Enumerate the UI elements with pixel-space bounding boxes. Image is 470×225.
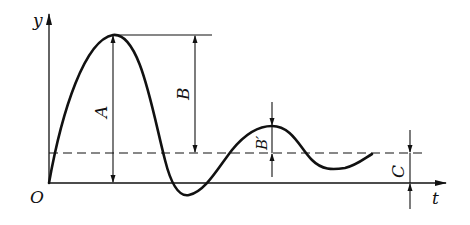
dimension-b-label: B <box>173 88 193 102</box>
x-axis-label: t <box>432 188 439 208</box>
dimension-c-label: C <box>388 165 408 178</box>
y-axis-label: y <box>32 10 43 30</box>
dimension-b-prime-label: B′ <box>253 135 271 151</box>
dimension-a-label: A <box>91 106 111 120</box>
diagram-canvas: y t O A B B′ C <box>0 0 470 225</box>
origin-label: O <box>30 187 44 207</box>
